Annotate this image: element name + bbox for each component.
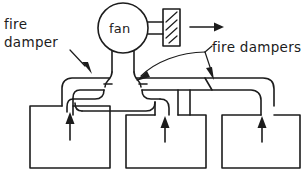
airflow-arrow-room-1 <box>66 112 75 140</box>
label-fire-damper-line1: fire <box>4 16 27 32</box>
mid-duct-bottom-left-elbow <box>75 103 82 111</box>
mid-duct-junction-right <box>142 90 160 99</box>
damper-tick-right <box>205 78 212 90</box>
right-upper-duct-outer-wall <box>137 78 274 106</box>
leader-right-fire-dampers-a <box>136 52 205 81</box>
discharge-flow-arrow <box>190 23 224 32</box>
leader-right-fire-dampers-b <box>205 52 214 80</box>
mid-duct-left-return <box>67 99 73 112</box>
mid-branch-drop-right-wall <box>160 99 169 115</box>
airflow-arrow-room-2 <box>161 116 170 142</box>
label-fire-damper-line2: damper <box>4 34 58 50</box>
schematic-svg: fire damper fan fire dampers <box>0 0 307 188</box>
discharge-louver-hatching <box>166 12 177 43</box>
leader-left-fire-damper <box>70 50 92 74</box>
airflow-arrow-room-3 <box>258 116 267 142</box>
label-fire-dampers: fire dampers <box>212 39 301 55</box>
diagram-canvas: fire damper fan fire dampers <box>0 0 307 188</box>
leader-right-hook <box>205 46 212 52</box>
right-upper-duct-inner-wall <box>142 90 261 115</box>
left-branch-duct-outer-wall <box>62 78 109 106</box>
label-fan: fan <box>109 21 130 36</box>
mid-duct-junction-left <box>73 90 104 99</box>
